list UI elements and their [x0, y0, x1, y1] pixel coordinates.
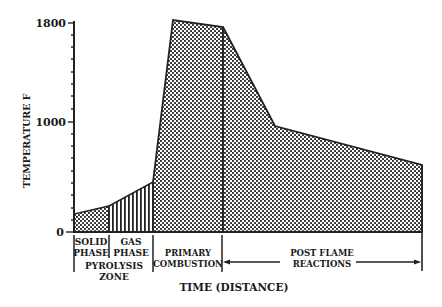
post-flame-label-2: REACTIONS — [293, 259, 352, 269]
gas-phase-label-2: PHASE — [113, 248, 149, 258]
y-axis-label: TEMPERATURE F — [21, 93, 32, 188]
y-tick-1800: 1800 — [35, 17, 66, 30]
pyrolysis-zone-label-2: ZONE — [99, 272, 129, 282]
gas-phase-label-1: GAS — [120, 237, 141, 247]
gas-phase-area — [109, 182, 153, 232]
solid-phase-label-1: SOLID — [75, 237, 108, 247]
primary-combustion-label-1: PRIMARY — [165, 248, 212, 258]
pyrolysis-zone-label-1: PYROLYSIS — [85, 261, 143, 271]
y-tick-0: 0 — [56, 226, 64, 239]
y-tick-1000: 1000 — [35, 116, 66, 129]
solid-phase-area — [74, 206, 109, 232]
post-flame-area — [223, 27, 422, 232]
post-flame-label-1: POST FLAME — [290, 248, 354, 258]
temperature-profile-diagram: 1800 1000 0 TEMPERATURE F SOLID PHASE GA… — [0, 0, 442, 307]
x-axis-label: TIME (DISTANCE) — [180, 281, 289, 293]
primary-combustion-label-2: COMBUSTION — [153, 259, 223, 269]
solid-phase-label-2: PHASE — [73, 248, 109, 258]
primary-combustion-area — [153, 20, 223, 232]
y-axis-ticks — [66, 23, 74, 232]
